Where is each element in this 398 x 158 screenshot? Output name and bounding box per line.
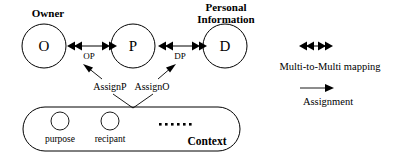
context-ellipsis-dot: [177, 123, 180, 126]
context-box-label: Context: [188, 135, 227, 147]
edge-op-arrowhead-right-inner: [102, 42, 110, 51]
legend-double-arrow-head-left-outer: [299, 42, 307, 51]
context-ellipsis-icon: [159, 123, 192, 126]
assignment-arrow-assignp-label: AssignP: [93, 81, 127, 92]
context-ellipsis-dot: [183, 123, 186, 126]
node-owner-letter: O: [39, 38, 50, 54]
assignment-arrow-assigno: AssignO: [134, 64, 176, 92]
edge-dp-arrowhead-right-inner: [192, 42, 200, 51]
legend-double-arrow-head-right-inner: [318, 42, 326, 51]
context-item-recipant: recipant: [95, 112, 126, 144]
context-item-purpose-label: purpose: [45, 134, 75, 144]
edge-dp: DP: [158, 42, 207, 62]
context-ellipsis-dot: [189, 123, 192, 126]
context-connector-right-leg: [133, 94, 153, 108]
edge-dp-arrowhead-left-outer: [158, 42, 166, 51]
context-ellipsis-dot: [159, 123, 162, 126]
node-owner: Owner O: [22, 7, 66, 68]
legend-double-arrow-head-left-inner: [306, 42, 314, 51]
node-personal-information-caption-line1: Personal: [206, 1, 247, 13]
node-personal-information-caption-line2: Information: [197, 13, 254, 25]
legend-single-arrow-icon: [300, 84, 334, 92]
legend-item-multi-to-multi-label: Multi-to-Multi mapping: [279, 61, 381, 72]
context-connector: [113, 94, 153, 108]
legend-double-arrow-icon: [299, 42, 333, 51]
node-personal-information-letter: D: [220, 38, 231, 54]
edge-op-arrowhead-left-outer: [67, 42, 75, 51]
context-box: purpose recipant Context: [23, 107, 240, 151]
assignment-arrow-assignp-head: [83, 64, 93, 73]
edge-op: OP: [67, 42, 117, 62]
context-connector-left-leg: [113, 94, 133, 108]
edge-op-label: OP: [83, 51, 95, 61]
diagram-canvas: Owner O P Personal Information D OP: [0, 0, 398, 158]
context-item-recipant-label: recipant: [95, 134, 126, 144]
edge-op-arrowhead-left-inner: [74, 42, 82, 51]
context-item-purpose: purpose: [45, 112, 75, 144]
node-owner-caption: Owner: [32, 7, 65, 19]
node-personal-information: Personal Information D: [197, 1, 254, 68]
edge-op-arrowhead-right-outer: [109, 42, 117, 51]
context-item-purpose-circle: [51, 112, 69, 130]
legend-double-arrow-head-right-outer: [325, 42, 333, 51]
legend-item-assignment: Assignment: [300, 84, 353, 107]
node-p-letter: P: [129, 38, 137, 54]
context-item-recipant-circle: [101, 112, 119, 130]
edge-dp-label: DP: [174, 51, 186, 61]
context-ellipsis-dot: [165, 123, 168, 126]
node-p: P: [111, 24, 155, 68]
diagram-svg: Owner O P Personal Information D OP: [0, 0, 398, 158]
legend-single-arrow-head: [325, 84, 334, 92]
legend-item-multi-to-multi: Multi-to-Multi mapping: [279, 42, 381, 73]
assignment-arrow-assignp: AssignP: [83, 64, 127, 92]
assignment-arrow-assigno-label: AssignO: [134, 81, 169, 92]
legend-item-assignment-label: Assignment: [303, 96, 353, 107]
edge-dp-arrowhead-left-inner: [165, 42, 173, 51]
context-ellipsis-dot: [171, 123, 174, 126]
